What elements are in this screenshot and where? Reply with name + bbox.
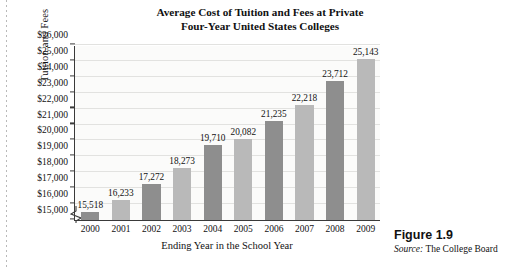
x-tick-label: 2004 — [203, 224, 222, 234]
chart-title-line-2: Four-Year United States Colleges — [110, 20, 410, 34]
bar-value-label: 21,235 — [261, 109, 287, 119]
bar-value-label: 25,143 — [353, 47, 379, 57]
y-tick-label: $17,000 — [37, 173, 68, 183]
bar — [295, 105, 313, 220]
bar — [142, 184, 160, 220]
y-tick-label: $15,000 — [37, 205, 68, 215]
figure-source-lead: Source: — [394, 244, 423, 254]
bar-value-label: 18,273 — [169, 156, 195, 166]
bar-value-label: 16,233 — [108, 188, 134, 198]
x-tick-label: 2005 — [234, 224, 253, 234]
bar-slot: 17,272 — [142, 46, 160, 220]
bar-slot: 20,082 — [234, 46, 252, 220]
figure-number: Figure 1.9 — [394, 228, 516, 242]
bar — [204, 145, 222, 220]
x-tick-label: 2002 — [142, 224, 161, 234]
figure-1-9: Average Cost of Tuition and Fees at Priv… — [0, 0, 517, 268]
bar — [112, 200, 130, 220]
bar — [265, 121, 283, 220]
chart-title: Average Cost of Tuition and Fees at Priv… — [110, 6, 410, 33]
bar-slot: 25,143 — [357, 46, 375, 220]
bar-value-label: 19,710 — [200, 133, 226, 143]
bar — [234, 139, 252, 220]
bar-value-label: 23,712 — [322, 69, 348, 79]
figure-caption: Figure 1.9 Source: The College Board — [394, 228, 516, 255]
bar-value-label: 15,518 — [77, 200, 103, 210]
bar-slot: 19,710 — [204, 46, 222, 220]
x-axis-title: Ending Year in the School Year — [74, 240, 380, 251]
y-tick-label: $19,000 — [37, 141, 68, 151]
bar-slot: 18,273 — [173, 46, 191, 220]
bar-value-label: 17,272 — [139, 172, 165, 182]
bar — [81, 212, 99, 220]
y-tick-label: $23,000 — [37, 78, 68, 88]
bar-series: 15,51816,23317,27218,27319,71020,08221,2… — [75, 46, 380, 220]
x-tick-label: 2006 — [264, 224, 283, 234]
y-tick-label: $24,000 — [37, 62, 68, 72]
x-tick-label: 2001 — [111, 224, 130, 234]
y-tick-label: $16,000 — [37, 189, 68, 199]
bar — [173, 168, 191, 220]
figure-source: Source: The College Board — [394, 243, 516, 255]
bar-slot: 23,712 — [326, 46, 344, 220]
x-tick-label: 2000 — [81, 224, 100, 234]
bar-value-label: 22,218 — [292, 93, 318, 103]
y-tick-label: $20,000 — [37, 125, 68, 135]
x-tick-label: 2009 — [356, 224, 375, 234]
gridline — [75, 44, 380, 45]
y-tick-mark — [70, 43, 75, 44]
figure-source-text: The College Board — [423, 244, 498, 254]
bar-slot: 16,233 — [112, 46, 130, 220]
y-tick-label: $26,000 — [37, 30, 68, 40]
x-tick-label: 2008 — [326, 224, 345, 234]
bar — [357, 59, 375, 220]
y-tick-label: $22,000 — [37, 94, 68, 104]
bar — [326, 81, 344, 220]
chart-title-line-1: Average Cost of Tuition and Fees at Priv… — [110, 6, 410, 20]
bar-slot: 22,218 — [295, 46, 313, 220]
bar-value-label: 20,082 — [230, 127, 256, 137]
x-tick-label: 2007 — [295, 224, 314, 234]
plot-area: Tuition and Fees $15,000$16,000$17,000$1… — [74, 46, 380, 221]
y-tick-label: $18,000 — [37, 157, 68, 167]
bar-slot: 15,518 — [81, 46, 99, 220]
x-tick-label: 2003 — [173, 224, 192, 234]
y-tick-label: $21,000 — [37, 110, 68, 120]
bar-slot: 21,235 — [265, 46, 283, 220]
y-tick-label: $25,000 — [37, 46, 68, 56]
